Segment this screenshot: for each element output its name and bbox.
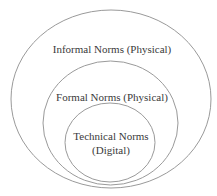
formal-norms-label: Formal Norms (Physical) <box>56 91 168 104</box>
nested-norms-diagram: Informal Norms (Physical) Formal Norms (… <box>0 0 217 196</box>
formal-norms-ellipse <box>43 61 178 185</box>
technical-norms-label-line2: (Digital) <box>92 144 130 157</box>
informal-norms-label: Informal Norms (Physical) <box>53 43 172 56</box>
technical-norms-ellipse <box>65 103 155 182</box>
technical-norms-label-line1: Technical Norms <box>73 130 148 142</box>
